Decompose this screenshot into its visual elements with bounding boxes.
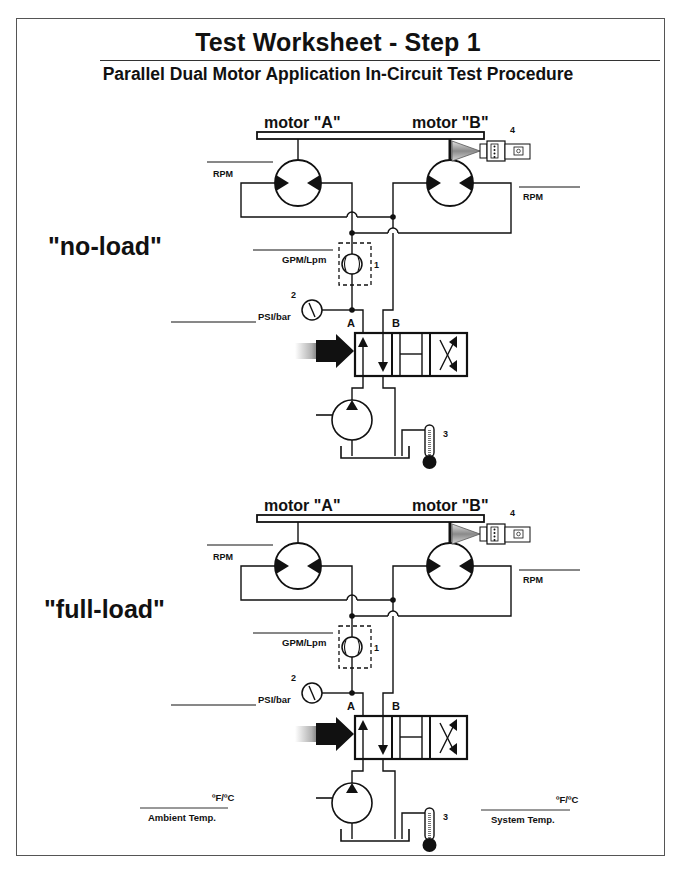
callout-thermometer: 3 — [443, 429, 448, 439]
motor-a-label: motor "A" — [264, 497, 341, 514]
pressure-label: PSI/bar — [258, 694, 291, 705]
flow-label: GPM/Lpm — [282, 254, 326, 265]
system-temp-field: ºF/ºC System Temp. — [481, 794, 578, 825]
callout-pressure-gauge: 2 — [291, 290, 296, 300]
port-b-label: B — [392, 700, 400, 712]
callout-flow-meter: 1 — [374, 643, 379, 653]
motor-a-rpm-label: RPM — [213, 169, 233, 179]
port-a-label: A — [347, 317, 355, 329]
motor-a-label: motor "A" — [264, 114, 341, 131]
system-temp-label: System Temp. — [491, 814, 555, 825]
circuit-diagram-no-load: motor "A" motor "B" RPM RPM GPM/Lpm PSI/… — [171, 114, 580, 469]
flow-label: GPM/Lpm — [282, 637, 326, 648]
pressure-label: PSI/bar — [258, 311, 291, 322]
motor-b-label: motor "B" — [412, 497, 489, 514]
motor-b-rpm-label: RPM — [523, 575, 543, 585]
ambient-temp-label: Ambient Temp. — [148, 812, 216, 823]
callout-pressure-gauge: 2 — [291, 673, 296, 683]
ambient-temp-unit: ºF/ºC — [212, 792, 234, 803]
port-a-label: A — [347, 700, 355, 712]
motor-b-rpm-label: RPM — [523, 192, 543, 202]
system-temp-unit: ºF/ºC — [556, 794, 578, 805]
callout-tachometer: 4 — [510, 508, 515, 518]
callout-tachometer: 4 — [510, 125, 515, 135]
port-b-label: B — [392, 317, 400, 329]
motor-a-rpm-label: RPM — [213, 552, 233, 562]
callout-thermometer: 3 — [443, 812, 448, 822]
callout-flow-meter: 1 — [374, 260, 379, 270]
motor-b-label: motor "B" — [412, 114, 489, 131]
ambient-temp-field: ºF/ºC Ambient Temp. — [140, 792, 234, 823]
